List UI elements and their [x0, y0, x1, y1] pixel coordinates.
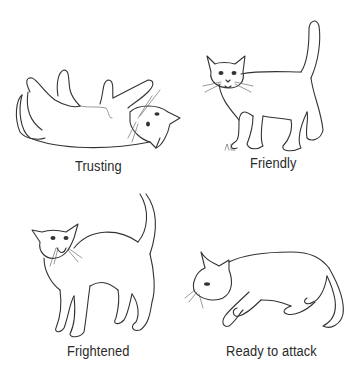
caption-trusting: Trusting — [75, 158, 122, 174]
panel-frightened: Frightened — [0, 190, 181, 381]
panel-ready-to-attack: Ready to attack — [181, 190, 362, 381]
panel-trusting: Trusting — [0, 0, 181, 190]
caption-ready-to-attack: Ready to attack — [226, 343, 317, 359]
caption-friendly: Friendly — [250, 155, 297, 171]
caption-frightened: Frightened — [67, 343, 130, 359]
panel-friendly: Friendly — [181, 0, 362, 190]
